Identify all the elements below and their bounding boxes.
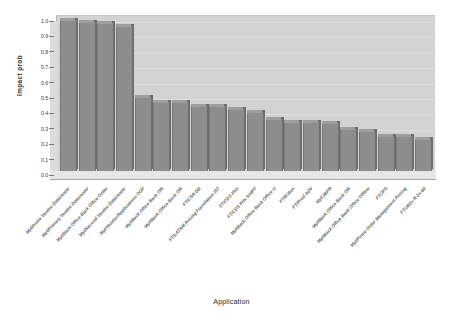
x-axis-title: Application bbox=[0, 298, 463, 305]
bar[interactable] bbox=[322, 123, 337, 171]
bar-front-face bbox=[396, 136, 413, 171]
bar[interactable] bbox=[60, 20, 75, 171]
bar-top-face bbox=[79, 20, 94, 23]
bar[interactable] bbox=[116, 26, 131, 171]
bar[interactable] bbox=[172, 102, 187, 171]
bar-top-face bbox=[247, 110, 262, 113]
bar[interactable] bbox=[135, 97, 150, 171]
bar[interactable] bbox=[191, 106, 206, 171]
bar-top-face bbox=[228, 107, 243, 110]
x-axis-tick-label: Myl/JBPR bbox=[315, 186, 333, 205]
bar-front-face bbox=[153, 102, 170, 171]
bar-top-face bbox=[191, 104, 206, 107]
bar-top-face bbox=[172, 100, 187, 103]
y-axis-tick-label: 0.4 bbox=[41, 110, 48, 116]
bar[interactable] bbox=[79, 22, 94, 171]
y-axis-tick-label: 0.6 bbox=[41, 80, 48, 86]
bar-top-face bbox=[396, 134, 411, 137]
bar[interactable] bbox=[396, 136, 411, 171]
x-axis-tick-label: FT/JPS bbox=[375, 186, 389, 201]
bar-front-face bbox=[60, 20, 77, 171]
bar[interactable] bbox=[266, 119, 281, 171]
bar[interactable] bbox=[359, 131, 374, 171]
y-axis-tick-label: 0.7 bbox=[41, 64, 48, 70]
bar-top-face bbox=[60, 18, 75, 21]
bar-front-face bbox=[322, 123, 339, 171]
bar-front-face bbox=[228, 109, 245, 171]
bar-front-face bbox=[97, 23, 114, 171]
bar-top-face bbox=[209, 104, 224, 107]
bar-front-face bbox=[359, 131, 376, 171]
y-axis-tick-label: 0.2 bbox=[41, 141, 48, 147]
bar-top-face bbox=[415, 137, 430, 140]
bar-top-face bbox=[378, 134, 393, 137]
bar[interactable] bbox=[378, 136, 393, 171]
bar[interactable] bbox=[209, 106, 224, 171]
bar[interactable] bbox=[97, 23, 112, 171]
bar-front-face bbox=[135, 97, 152, 171]
y-axis-tick-label: 0.9 bbox=[41, 33, 48, 39]
bar-front-face bbox=[266, 119, 283, 171]
y-axis-tick-label: 0.5 bbox=[41, 95, 48, 101]
y-axis-title: Impact prob bbox=[16, 31, 23, 121]
bar-front-face bbox=[209, 106, 226, 171]
bar-front-face bbox=[340, 129, 357, 171]
y-axis-tick-label: 0.3 bbox=[41, 126, 48, 132]
bar-front-face bbox=[303, 122, 320, 171]
y-axis: Impact prob 1.00.90.80.70.60.50.40.30.20… bbox=[0, 10, 56, 185]
bar[interactable] bbox=[303, 122, 318, 171]
bar-front-face bbox=[191, 106, 208, 171]
y-axis-tick-label: 1.0 bbox=[41, 18, 48, 24]
bar-front-face bbox=[79, 22, 96, 171]
bar-top-face bbox=[303, 120, 318, 123]
bar[interactable] bbox=[228, 109, 243, 171]
bar-front-face bbox=[116, 26, 133, 171]
bar-top-face bbox=[116, 24, 131, 27]
bar[interactable] bbox=[153, 102, 168, 171]
bar-front-face bbox=[415, 139, 432, 171]
y-axis-tick-label: 0.1 bbox=[41, 157, 48, 163]
bar-top-face bbox=[97, 21, 112, 24]
bar-top-face bbox=[340, 127, 355, 130]
bar-top-face bbox=[153, 100, 168, 103]
bar-top-face bbox=[359, 129, 374, 132]
x-axis: Myl/Prime Vendor DatacenterMyl/Primary V… bbox=[0, 180, 463, 290]
bar-series bbox=[50, 15, 436, 180]
x-axis-tick-label: Myl/Back Office Back Offi bbox=[143, 186, 184, 229]
bar-front-face bbox=[247, 112, 264, 171]
bar[interactable] bbox=[415, 139, 430, 171]
bar-front-face bbox=[378, 136, 395, 171]
bar[interactable] bbox=[284, 122, 299, 171]
bar-top-face bbox=[135, 95, 150, 98]
bar-top-face bbox=[322, 121, 337, 124]
y-axis-tick-label: 0.8 bbox=[41, 49, 48, 55]
x-axis-tick-label: FT/R-Bus bbox=[278, 186, 295, 204]
bar-top-face bbox=[284, 120, 299, 123]
bar-chart-figure: Impact prob 1.00.90.80.70.60.50.40.30.20… bbox=[0, 0, 463, 325]
bar-front-face bbox=[284, 122, 301, 171]
bar-top-face bbox=[266, 117, 281, 120]
y-axis-tick-label: 0.0 bbox=[41, 172, 48, 178]
bar-front-face bbox=[172, 102, 189, 171]
bar[interactable] bbox=[340, 129, 355, 171]
bar[interactable] bbox=[247, 112, 262, 171]
